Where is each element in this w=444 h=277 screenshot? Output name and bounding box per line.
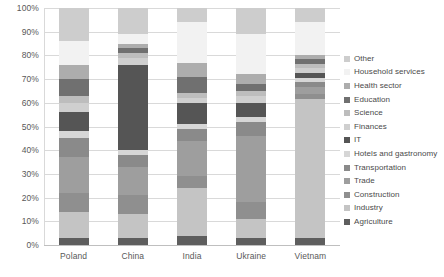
- legend-item-health-sector[interactable]: Health sector: [344, 79, 444, 93]
- bar-segment-finances[interactable]: [236, 96, 266, 103]
- bar-segment-health-sector[interactable]: [59, 65, 89, 79]
- y-axis-tick-label: 30%: [22, 169, 39, 179]
- x-axis-label-china: China: [121, 251, 144, 261]
- bar-segment-health-sector[interactable]: [177, 63, 207, 77]
- bar-series-container: [44, 8, 340, 245]
- stacked-bar-chart: 0%10%20%30%40%50%60%70%80%90%100% Poland…: [0, 0, 444, 277]
- legend-item-construction[interactable]: Construction: [344, 188, 444, 202]
- y-axis-tick-label: 100%: [17, 3, 39, 13]
- y-axis-tick-label: 70%: [22, 74, 39, 84]
- y-axis: 0%10%20%30%40%50%60%70%80%90%100%: [0, 0, 44, 253]
- bar-segment-agriculture[interactable]: [295, 238, 325, 245]
- legend-label: Transportation: [354, 164, 406, 172]
- bar-segment-it[interactable]: [177, 103, 207, 124]
- legend-label: Finances: [354, 123, 387, 131]
- y-axis-tick-label: 80%: [22, 50, 39, 60]
- bar-segment-household-services[interactable]: [295, 22, 325, 55]
- legend-swatch-icon: [344, 165, 350, 171]
- x-axis-label-ukraine: Ukraine: [236, 251, 266, 261]
- bar-segment-trade[interactable]: [118, 167, 148, 195]
- bar-segment-industry[interactable]: [177, 188, 207, 235]
- plot-area: [44, 8, 340, 245]
- bar-segment-trade[interactable]: [295, 87, 325, 94]
- x-axis-label-poland: Poland: [60, 251, 87, 261]
- legend-swatch-icon: [344, 110, 350, 116]
- bar-segment-household-services[interactable]: [177, 22, 207, 62]
- bar-segment-construction[interactable]: [177, 176, 207, 188]
- legend-item-transportation[interactable]: Transportation: [344, 161, 444, 175]
- legend-item-trade[interactable]: Trade: [344, 174, 444, 188]
- bar-group-poland[interactable]: [59, 8, 89, 245]
- legend-swatch-icon: [344, 137, 350, 143]
- bar-group-india[interactable]: [177, 8, 207, 245]
- bar-segment-trade[interactable]: [177, 141, 207, 177]
- bar-segment-other[interactable]: [236, 8, 266, 34]
- legend-swatch-icon: [344, 219, 350, 225]
- y-axis-tick-label: 60%: [22, 98, 39, 108]
- bar-segment-education[interactable]: [177, 77, 207, 94]
- legend-swatch-icon: [344, 178, 350, 184]
- y-axis-tick-label: 20%: [22, 193, 39, 203]
- legend-label: Hotels and gastronomy: [354, 150, 437, 158]
- bar-segment-it[interactable]: [236, 103, 266, 117]
- bar-segment-agriculture[interactable]: [236, 238, 266, 245]
- y-axis-tick-label: 40%: [22, 145, 39, 155]
- legend-label: Industry: [354, 204, 383, 212]
- bar-segment-agriculture[interactable]: [177, 236, 207, 245]
- bar-segment-agriculture[interactable]: [118, 238, 148, 245]
- legend-label: Construction: [354, 191, 400, 199]
- bar-segment-hotels-and-gastronomy[interactable]: [59, 131, 89, 138]
- chart-legend: OtherHousehold servicesHealth sectorEduc…: [344, 52, 444, 229]
- bar-segment-industry[interactable]: [295, 99, 325, 238]
- bar-segment-it[interactable]: [118, 65, 148, 150]
- bar-segment-science[interactable]: [59, 96, 89, 103]
- y-axis-tick-label: 90%: [22, 27, 39, 37]
- legend-item-education[interactable]: Education: [344, 93, 444, 107]
- bar-segment-transportation[interactable]: [236, 122, 266, 136]
- legend-label: Other: [354, 55, 374, 63]
- bar-group-vietnam[interactable]: [295, 8, 325, 245]
- bar-segment-construction[interactable]: [118, 195, 148, 214]
- bar-segment-education[interactable]: [59, 79, 89, 96]
- legend-swatch-icon: [344, 151, 350, 157]
- bar-segment-industry[interactable]: [59, 212, 89, 238]
- legend-swatch-icon: [344, 69, 350, 75]
- legend-item-agriculture[interactable]: Agriculture: [344, 215, 444, 229]
- bar-segment-it[interactable]: [59, 112, 89, 131]
- bar-segment-finances[interactable]: [118, 58, 148, 65]
- legend-item-it[interactable]: IT: [344, 134, 444, 148]
- bar-segment-household-services[interactable]: [59, 41, 89, 65]
- bar-segment-other[interactable]: [59, 8, 89, 41]
- bar-segment-household-services[interactable]: [118, 34, 148, 43]
- bar-segment-household-services[interactable]: [236, 34, 266, 74]
- bar-segment-industry[interactable]: [118, 214, 148, 238]
- legend-swatch-icon: [344, 192, 350, 198]
- bar-segment-trade[interactable]: [236, 136, 266, 202]
- y-axis-tick-label: 0%: [27, 240, 40, 250]
- bar-segment-health-sector[interactable]: [236, 74, 266, 83]
- bar-segment-agriculture[interactable]: [59, 238, 89, 245]
- bar-segment-transportation[interactable]: [59, 138, 89, 157]
- bar-segment-transportation[interactable]: [118, 155, 148, 167]
- legend-item-finances[interactable]: Finances: [344, 120, 444, 134]
- legend-item-science[interactable]: Science: [344, 106, 444, 120]
- legend-item-hotels-and-gastronomy[interactable]: Hotels and gastronomy: [344, 147, 444, 161]
- bar-segment-other[interactable]: [295, 8, 325, 22]
- bar-segment-industry[interactable]: [236, 219, 266, 238]
- bar-segment-other[interactable]: [177, 8, 207, 22]
- bar-segment-transportation[interactable]: [177, 129, 207, 141]
- y-axis-tick-label: 10%: [22, 216, 39, 226]
- bar-segment-trade[interactable]: [59, 157, 89, 193]
- bar-segment-construction[interactable]: [59, 193, 89, 212]
- bar-segment-construction[interactable]: [236, 202, 266, 219]
- y-axis-tick-label: 50%: [22, 122, 39, 132]
- legend-item-household-services[interactable]: Household services: [344, 66, 444, 80]
- legend-item-industry[interactable]: Industry: [344, 202, 444, 216]
- bar-segment-other[interactable]: [118, 8, 148, 34]
- bar-group-china[interactable]: [118, 8, 148, 245]
- bar-segment-finances[interactable]: [59, 103, 89, 112]
- legend-item-other[interactable]: Other: [344, 52, 444, 66]
- legend-label: Education: [354, 96, 390, 104]
- bar-segment-education[interactable]: [236, 84, 266, 91]
- bar-group-ukraine[interactable]: [236, 8, 266, 245]
